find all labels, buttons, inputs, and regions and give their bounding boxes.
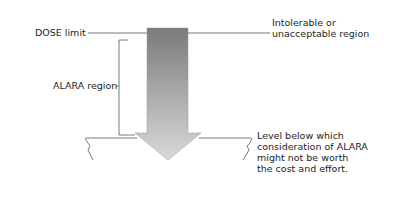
break-mark-left [85, 138, 93, 160]
level-below-label-1: Level below which [257, 130, 344, 141]
level-below-label-4: the cost and effort. [257, 163, 348, 174]
alara-bracket [119, 40, 135, 135]
level-below-label-2: consideration of ALARA [257, 141, 368, 152]
alara-region-label: ALARA region [53, 80, 117, 91]
intolerable-label-2: unacceptable region [272, 28, 369, 39]
break-mark-right [243, 138, 252, 160]
dose-arrow [135, 28, 201, 160]
level-below-label-3: might not be worth [257, 152, 348, 163]
intolerable-label-1: Intolerable or [272, 17, 336, 28]
dose-limit-label: DOSE limit [35, 27, 86, 38]
